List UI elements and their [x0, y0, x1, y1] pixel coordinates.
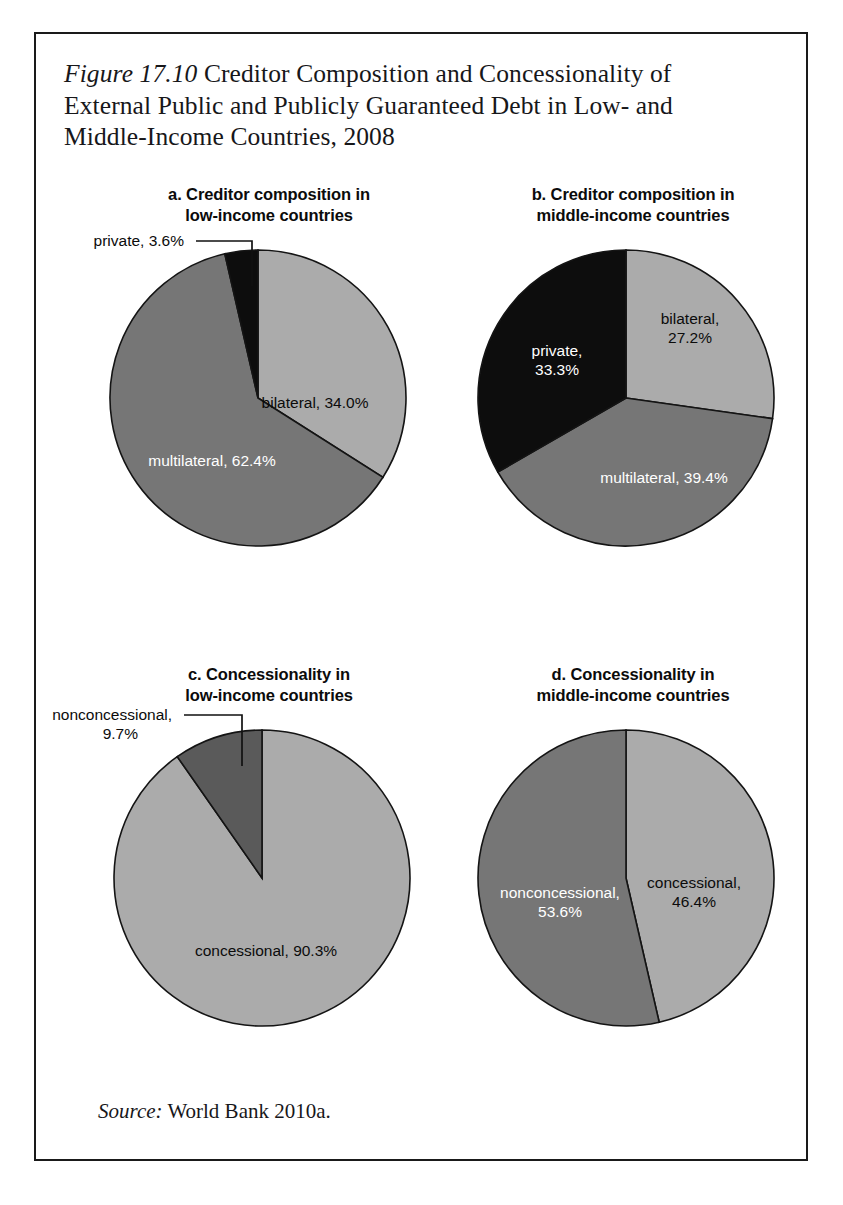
panel-a-label-multilateral: multilateral, 62.4%: [148, 452, 276, 469]
source-label: Source:: [98, 1099, 163, 1123]
panel-a-label-bilateral-line1: bilateral, 34.0%: [262, 394, 369, 411]
panel-b-label-bilateral-line2: 27.2%: [668, 329, 712, 346]
panel-c-title-line: c. Concessionality in: [76, 664, 462, 685]
panel-a: a. Creditor composition inlow-income cou…: [76, 184, 462, 644]
figure-frame: Figure 17.10 Creditor Composition and Co…: [34, 32, 808, 1161]
panel-d: d. Concessionality inmiddle-income count…: [440, 664, 826, 1124]
panel-d-label-nonconcessional-line2: 53.6%: [538, 903, 582, 920]
panel-c-pie-svg: concessional, 90.3%nonconcessional,9.7%: [76, 708, 462, 1108]
panel-b-label-multilateral: multilateral, 39.4%: [600, 469, 728, 486]
panel-a-label-bilateral: bilateral, 34.0%: [262, 394, 369, 411]
panel-a-label-multilateral-line1: multilateral, 62.4%: [148, 452, 276, 469]
panel-c-label-concessional-line1: concessional, 90.3%: [195, 942, 337, 959]
panel-a-title-line: a. Creditor composition in: [76, 184, 462, 205]
panel-a-title: a. Creditor composition inlow-income cou…: [76, 184, 462, 226]
panel-d-title: d. Concessionality inmiddle-income count…: [440, 664, 826, 706]
panel-b: b. Creditor composition inmiddle-income …: [440, 184, 826, 644]
panel-a-pie: bilateral, 34.0%multilateral, 62.4%priva…: [76, 228, 462, 628]
panel-b-label-multilateral-line1: multilateral, 39.4%: [600, 469, 728, 486]
panel-c-title: c. Concessionality inlow-income countrie…: [76, 664, 462, 706]
panel-d-title-line: d. Concessionality in: [440, 664, 826, 685]
panel-a-pie-svg: bilateral, 34.0%multilateral, 62.4%priva…: [76, 228, 462, 628]
panel-c-label-concessional: concessional, 90.3%: [195, 942, 337, 959]
panel-b-label-bilateral-line1: bilateral,: [661, 310, 720, 327]
panel-b-pie-svg: bilateral,27.2%multilateral, 39.4%privat…: [440, 228, 826, 628]
figure-page: Figure 17.10 Creditor Composition and Co…: [0, 0, 843, 1205]
panel-a-label-private: private, 3.6%: [94, 232, 185, 249]
panel-b-label-private-line2: 33.3%: [535, 361, 579, 378]
panel-b-title-line: b. Creditor composition in: [440, 184, 826, 205]
figure-source: Source: World Bank 2010a.: [98, 1099, 331, 1124]
panel-a-title-line: low-income countries: [76, 205, 462, 226]
panel-b-pie: bilateral,27.2%multilateral, 39.4%privat…: [440, 228, 826, 628]
panel-d-label-nonconcessional-line1: nonconcessional,: [500, 884, 620, 901]
panel-c-pie: concessional, 90.3%nonconcessional,9.7%: [76, 708, 462, 1108]
panel-d-pie: concessional,46.4%nonconcessional,53.6%: [440, 708, 826, 1108]
panel-c-title-line: low-income countries: [76, 685, 462, 706]
panel-d-title-line: middle-income countries: [440, 685, 826, 706]
panel-b-title-line: middle-income countries: [440, 205, 826, 226]
panel-a-label-private-line1: private, 3.6%: [94, 232, 185, 249]
panel-c-label-nonconcessional-line1: nonconcessional,: [52, 706, 172, 723]
panel-d-label-concessional-line1: concessional,: [647, 874, 741, 891]
panel-d-label-concessional-line2: 46.4%: [672, 893, 716, 910]
figure-title: Figure 17.10 Creditor Composition and Co…: [64, 58, 704, 153]
panel-c: c. Concessionality inlow-income countrie…: [76, 664, 462, 1124]
panel-c-label-nonconcessional: nonconcessional,9.7%: [52, 706, 172, 742]
figure-number: Figure 17.10: [64, 59, 197, 88]
source-citation: World Bank 2010a.: [163, 1099, 331, 1123]
panel-b-label-private-line1: private,: [532, 342, 583, 359]
panel-c-label-nonconcessional-line2: 9.7%: [103, 725, 139, 742]
panel-b-title: b. Creditor composition inmiddle-income …: [440, 184, 826, 226]
panel-d-pie-svg: concessional,46.4%nonconcessional,53.6%: [440, 708, 826, 1108]
